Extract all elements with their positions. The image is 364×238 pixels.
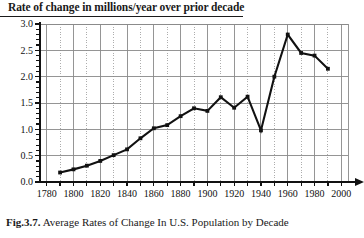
figure-caption-text: Average Rates of Change In U.S. Populati…: [43, 216, 289, 228]
y-tick-label: 1.0: [21, 124, 34, 135]
data-point-marker: [72, 167, 76, 171]
x-axis-tick-labels: 1780180018201840186018801900192019401960…: [37, 188, 352, 199]
data-point-marker: [205, 109, 209, 113]
data-point-marker: [246, 95, 250, 99]
x-tick-label: 1980: [305, 188, 325, 199]
data-point-marker: [152, 126, 156, 130]
y-tick-label: 3.0: [21, 18, 34, 29]
line-chart: 0.00.51.01.52.02.53.0 178018001820184018…: [0, 16, 364, 206]
data-point-marker: [139, 136, 143, 140]
y-tick-label: 0.5: [21, 150, 34, 161]
x-tick-label: 1880: [171, 188, 191, 199]
data-point-marker: [112, 153, 116, 157]
data-point-marker: [313, 54, 317, 58]
chart-title: Rate of change in millions/year over pri…: [8, 1, 244, 13]
y-tick-label: 2.0: [21, 71, 34, 82]
figure: Rate of change in millions/year over pri…: [0, 0, 364, 238]
x-tick-label: 1840: [117, 188, 137, 199]
x-tick-label: 1800: [63, 188, 83, 199]
data-point-marker: [179, 114, 183, 118]
x-tick-label: 1900: [197, 188, 217, 199]
tick-marks: [35, 24, 341, 186]
data-point-markers: [58, 33, 330, 175]
data-point-marker: [85, 164, 89, 168]
data-point-marker: [219, 95, 223, 99]
data-point-marker: [299, 51, 303, 55]
gridlines: [40, 24, 348, 182]
plot-area: 0.00.51.01.52.02.53.0 178018001820184018…: [0, 16, 364, 206]
figure-number: Fig.3.7.: [6, 216, 41, 228]
y-tick-label: 1.5: [21, 97, 34, 108]
x-tick-label: 1860: [144, 188, 164, 199]
data-point-marker: [232, 106, 236, 110]
data-point-marker: [58, 171, 62, 175]
x-tick-label: 1780: [37, 188, 57, 199]
data-point-marker: [326, 67, 330, 71]
x-tick-label: 1920: [224, 188, 244, 199]
data-point-marker: [125, 147, 129, 151]
data-point-marker: [272, 75, 276, 79]
y-tick-label: 0.0: [21, 176, 34, 187]
y-axis-tick-labels: 0.00.51.01.52.02.53.0: [21, 18, 34, 187]
x-tick-label: 1940: [251, 188, 271, 199]
x-tick-label: 1820: [90, 188, 110, 199]
data-point-marker: [98, 159, 102, 163]
y-tick-label: 2.5: [21, 45, 34, 56]
data-point-marker: [165, 123, 169, 127]
figure-caption: Fig.3.7. Average Rates of Change In U.S.…: [6, 216, 289, 228]
x-tick-label: 2000: [331, 188, 351, 199]
x-tick-label: 1960: [278, 188, 298, 199]
data-point-marker: [192, 106, 196, 110]
data-point-marker: [259, 128, 263, 132]
data-point-marker: [286, 33, 290, 37]
